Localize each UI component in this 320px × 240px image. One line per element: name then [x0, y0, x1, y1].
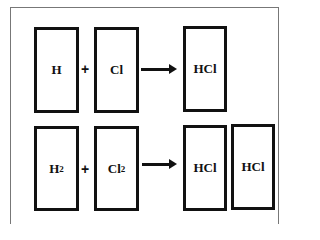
- reactant-subscript: 2: [59, 164, 64, 174]
- reactant-box-cl: Cl: [94, 27, 139, 113]
- reactant-box-h2: H2: [34, 126, 79, 211]
- reactant-subscript: 2: [121, 164, 126, 174]
- reactant-box-h: H: [34, 27, 79, 113]
- reactant-label: H: [49, 161, 59, 177]
- product-box-hcl-1: HCl: [183, 125, 227, 211]
- product-box-hcl: HCl: [183, 26, 227, 112]
- reactant-label: Cl: [110, 62, 123, 78]
- reactant-label: Cl: [108, 161, 121, 177]
- product-label: HCl: [193, 160, 216, 176]
- reactant-box-cl2: Cl2: [94, 126, 139, 211]
- product-box-hcl-2: HCl: [231, 124, 275, 210]
- product-label: HCl: [241, 159, 264, 175]
- reaction-arrow: [141, 68, 170, 71]
- reactant-label: H: [51, 62, 61, 78]
- plus-sign: +: [81, 62, 89, 76]
- reaction-arrow: [142, 163, 170, 166]
- plus-sign: +: [81, 162, 89, 176]
- product-label: HCl: [193, 61, 216, 77]
